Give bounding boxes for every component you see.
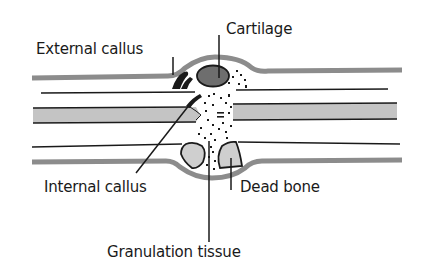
dead-bone-left (181, 143, 205, 168)
label-granulation-tissue: Granulation tissue (107, 245, 241, 260)
label-cartilage: Cartilage (226, 22, 292, 37)
upper-cortex-right (236, 89, 388, 90)
label-internal-callus: Internal callus (44, 180, 147, 195)
cartilage-mass (197, 66, 229, 87)
label-dead-bone: Dead bone (240, 180, 320, 195)
lower-cortex-right (238, 142, 400, 144)
lower-cortex-left (32, 144, 182, 147)
marrow-band-left (33, 107, 200, 123)
label-external-callus: External callus (36, 42, 143, 57)
upper-cortex-left (41, 92, 195, 93)
fracture-healing-diagram: Cartilage External callus Internal callu… (0, 0, 421, 273)
dead-bone-right (218, 142, 242, 168)
bottom-periosteum (32, 160, 402, 178)
marrow-band-right (233, 103, 397, 120)
